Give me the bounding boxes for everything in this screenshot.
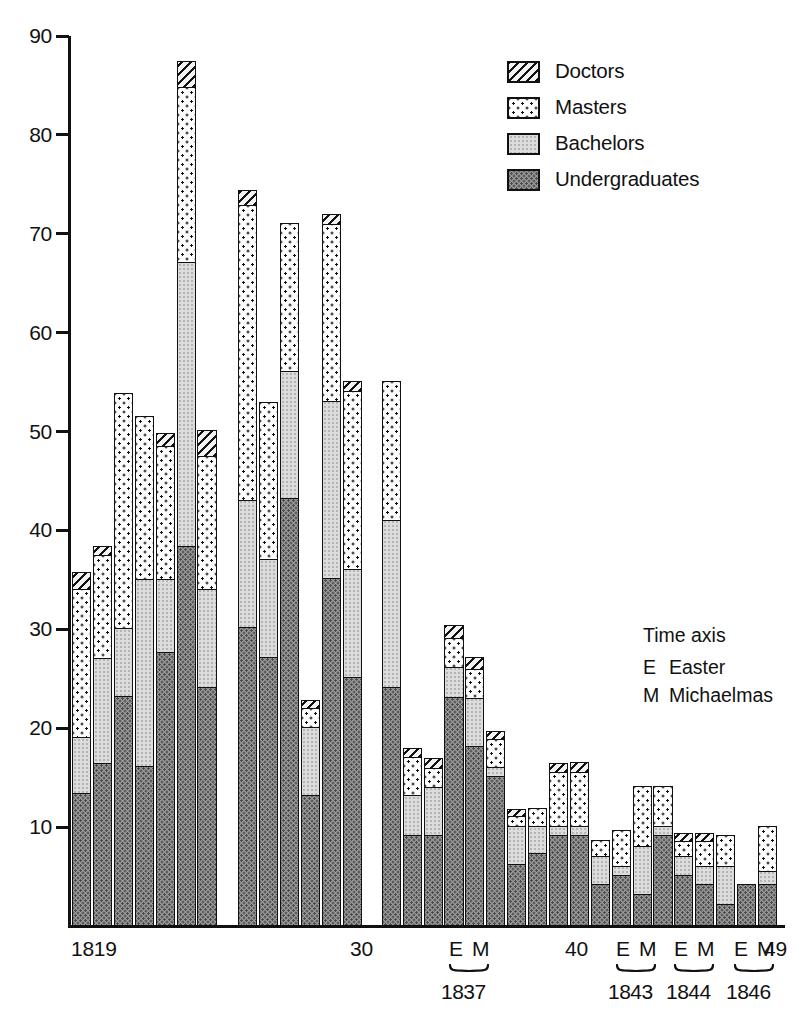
bar-segment-masters[interactable]	[716, 835, 735, 866]
bar-segment-bachelors[interactable]	[114, 628, 133, 697]
bar-segment-masters[interactable]	[695, 840, 714, 866]
bar-segment-undergraduates[interactable]	[633, 894, 652, 926]
bar-segment-doctors[interactable]	[72, 572, 91, 589]
bar-segment-undergraduates[interactable]	[549, 834, 568, 926]
bar[interactable]	[444, 626, 463, 926]
bar[interactable]	[403, 750, 422, 926]
bar-segment-bachelors[interactable]	[465, 697, 484, 747]
bar-segment-undergraduates[interactable]	[259, 656, 278, 926]
bar-segment-bachelors[interactable]	[403, 795, 422, 836]
bar-segment-undergraduates[interactable]	[486, 775, 505, 926]
bar-segment-doctors[interactable]	[674, 833, 693, 842]
bar-segment-undergraduates[interactable]	[72, 792, 91, 926]
bar-segment-doctors[interactable]	[444, 625, 463, 639]
bar[interactable]	[156, 435, 175, 926]
bar-segment-doctors[interactable]	[238, 190, 257, 206]
bar-segment-undergraduates[interactable]	[156, 651, 175, 926]
bar-segment-masters[interactable]	[424, 767, 443, 787]
bar-segment-masters[interactable]	[343, 390, 362, 570]
bar-segment-masters[interactable]	[301, 708, 320, 728]
bar-segment-undergraduates[interactable]	[343, 676, 362, 926]
bar[interactable]	[758, 827, 777, 926]
bar[interactable]	[465, 659, 484, 926]
bar-segment-masters[interactable]	[633, 786, 652, 847]
bar-segment-doctors[interactable]	[301, 700, 320, 710]
bar-segment-undergraduates[interactable]	[695, 884, 714, 926]
bar-segment-bachelors[interactable]	[591, 855, 610, 885]
bar-segment-bachelors[interactable]	[301, 727, 320, 797]
bar-segment-bachelors[interactable]	[280, 371, 299, 499]
bar-segment-undergraduates[interactable]	[591, 884, 610, 926]
bar-segment-doctors[interactable]	[486, 731, 505, 741]
bar-segment-bachelors[interactable]	[322, 400, 341, 579]
bar-segment-undergraduates[interactable]	[737, 884, 756, 926]
bar[interactable]	[507, 810, 526, 926]
bar[interactable]	[280, 225, 299, 926]
bar-segment-undergraduates[interactable]	[528, 852, 547, 926]
bar-segment-undergraduates[interactable]	[653, 834, 672, 926]
bar-segment-masters[interactable]	[72, 588, 91, 738]
bar-segment-masters[interactable]	[322, 223, 341, 402]
bar-segment-masters[interactable]	[280, 223, 299, 372]
bar-segment-bachelors[interactable]	[72, 737, 91, 794]
bar-segment-undergraduates[interactable]	[570, 834, 589, 926]
bar-segment-undergraduates[interactable]	[403, 834, 422, 926]
bar-segment-undergraduates[interactable]	[114, 695, 133, 926]
bar-segment-doctors[interactable]	[93, 546, 112, 557]
bar-segment-bachelors[interactable]	[716, 865, 735, 905]
bar[interactable]	[424, 760, 443, 926]
bar[interactable]	[72, 574, 91, 926]
bar[interactable]	[135, 418, 154, 926]
bar-segment-bachelors[interactable]	[674, 855, 693, 875]
bar-segment-masters[interactable]	[403, 756, 422, 796]
bar[interactable]	[114, 395, 133, 926]
bar-segment-undergraduates[interactable]	[716, 904, 735, 926]
bar-segment-masters[interactable]	[612, 830, 631, 866]
bar-segment-masters[interactable]	[114, 393, 133, 629]
bar-segment-bachelors[interactable]	[758, 870, 777, 885]
bar-segment-undergraduates[interactable]	[507, 863, 526, 926]
bar-segment-bachelors[interactable]	[695, 865, 714, 885]
bar-segment-undergraduates[interactable]	[177, 546, 196, 926]
bar-segment-bachelors[interactable]	[343, 568, 362, 677]
bar-segment-doctors[interactable]	[343, 381, 362, 392]
bar-segment-masters[interactable]	[591, 840, 610, 856]
bar-segment-undergraduates[interactable]	[674, 874, 693, 926]
bar-segment-bachelors[interactable]	[633, 845, 652, 895]
bar-segment-undergraduates[interactable]	[424, 834, 443, 926]
bar-segment-masters[interactable]	[177, 87, 196, 264]
bar-segment-bachelors[interactable]	[156, 578, 175, 653]
bar-segment-masters[interactable]	[653, 786, 672, 827]
bar[interactable]	[633, 788, 652, 926]
bar-segment-masters[interactable]	[528, 808, 547, 827]
bar-segment-undergraduates[interactable]	[280, 497, 299, 926]
bar-segment-masters[interactable]	[674, 840, 693, 856]
bar-segment-doctors[interactable]	[570, 762, 589, 773]
bar[interactable]	[93, 547, 112, 926]
bar-segment-doctors[interactable]	[403, 748, 422, 758]
bar-segment-undergraduates[interactable]	[238, 627, 257, 926]
bar-segment-masters[interactable]	[135, 416, 154, 580]
bar-segment-masters[interactable]	[197, 456, 216, 590]
bar[interactable]	[716, 837, 735, 926]
bar[interactable]	[486, 732, 505, 926]
bar-segment-doctors[interactable]	[197, 430, 216, 457]
bar-segment-bachelors[interactable]	[424, 786, 443, 836]
bar-segment-bachelors[interactable]	[177, 262, 196, 547]
bar-segment-doctors[interactable]	[322, 214, 341, 225]
bar-segment-undergraduates[interactable]	[301, 795, 320, 926]
bar[interactable]	[177, 63, 196, 926]
bar[interactable]	[737, 885, 756, 926]
bar-segment-undergraduates[interactable]	[382, 686, 401, 926]
bar-segment-doctors[interactable]	[465, 657, 484, 669]
bar-segment-undergraduates[interactable]	[465, 745, 484, 926]
bar-segment-undergraduates[interactable]	[612, 874, 631, 926]
bar-segment-doctors[interactable]	[695, 833, 714, 842]
bar[interactable]	[653, 788, 672, 926]
bar[interactable]	[612, 832, 631, 926]
bar-segment-undergraduates[interactable]	[135, 765, 154, 926]
bar-segment-doctors[interactable]	[177, 61, 196, 88]
bar-segment-masters[interactable]	[549, 771, 568, 827]
bar-segment-masters[interactable]	[382, 381, 401, 521]
bar-segment-masters[interactable]	[93, 555, 112, 659]
